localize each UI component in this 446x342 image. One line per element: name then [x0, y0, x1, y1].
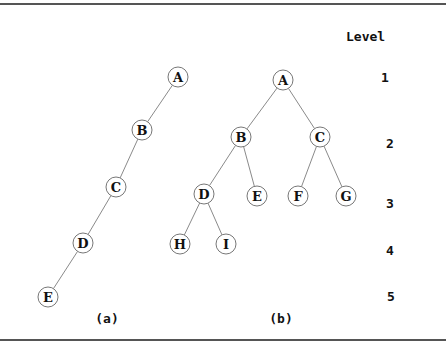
- tree-a-node-A: A: [168, 67, 188, 87]
- node-label: D: [198, 187, 209, 202]
- tree-b-edge-D-I: [208, 203, 222, 235]
- tree-b-node-E: E: [247, 186, 267, 206]
- node-label: F: [293, 189, 303, 204]
- tree-b-edge-C-G: [324, 146, 342, 187]
- captions-layer: (a)(b): [95, 311, 292, 326]
- node-label: B: [236, 130, 247, 145]
- node-label: H: [174, 237, 186, 252]
- tree-a-node-D: D: [73, 233, 93, 253]
- tree-b-node-A: A: [273, 70, 293, 90]
- level-column: 12345: [381, 70, 395, 304]
- tree-a-edge-B-C: [120, 139, 138, 178]
- tree-a-edge-D-E: [53, 251, 77, 288]
- node-label: A: [277, 73, 289, 88]
- node-label: A: [172, 70, 184, 85]
- tree-b-node-D: D: [194, 184, 214, 204]
- tree-a-node-B: B: [132, 120, 152, 140]
- tree-b-node-I: I: [216, 234, 236, 254]
- tree-a-edge-A-B: [148, 85, 173, 121]
- tree-b-edge-C-F: [301, 146, 316, 186]
- level-5: 5: [387, 289, 395, 304]
- node-label: C: [111, 180, 121, 195]
- tree-a-node-E: E: [38, 287, 58, 307]
- tree-b-edge-B-D: [209, 145, 235, 185]
- tree-b-edge-A-B: [247, 88, 277, 129]
- node-label: B: [137, 123, 148, 138]
- node-label: C: [315, 130, 325, 145]
- level-2: 2: [386, 136, 394, 151]
- tree-b-node-C: C: [310, 127, 330, 147]
- node-label: I: [223, 237, 229, 252]
- tree-a-caption: (a): [95, 311, 118, 326]
- tree-b-node-G: G: [336, 186, 356, 206]
- node-label: D: [77, 236, 88, 251]
- node-label: G: [340, 189, 351, 204]
- level-1: 1: [381, 70, 389, 85]
- level-header: Level: [346, 29, 385, 44]
- tree-a-edge-C-D: [88, 196, 111, 235]
- tree-b-node-B: B: [231, 127, 251, 147]
- tree-b-node-F: F: [288, 186, 308, 206]
- tree-b-edge-D-H: [184, 203, 199, 235]
- tree-b-edge-B-E: [244, 147, 255, 187]
- node-label: E: [43, 290, 53, 305]
- tree-b-edge-A-C: [288, 88, 314, 128]
- node-label: E: [252, 189, 262, 204]
- level-4: 4: [386, 243, 394, 258]
- nodes-layer: ABCDEABCDEFGHI: [38, 67, 356, 307]
- tree-b-caption: (b): [269, 311, 292, 326]
- tree-diagram: ABCDEABCDEFGHI (a)(b) Level 12345: [0, 0, 446, 342]
- tree-a-node-C: C: [106, 177, 126, 197]
- tree-b-node-H: H: [170, 234, 190, 254]
- level-3: 3: [386, 196, 394, 211]
